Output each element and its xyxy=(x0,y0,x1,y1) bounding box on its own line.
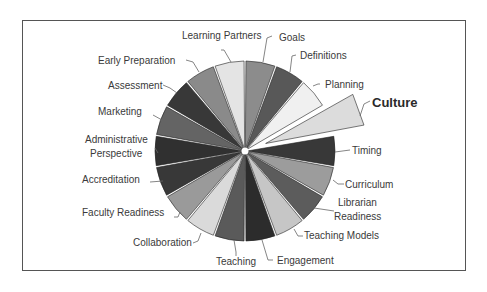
label-administrative-perspective-2: Perspective xyxy=(90,148,143,159)
label-definitions: Definitions xyxy=(300,50,347,61)
label-accreditation: Accreditation xyxy=(82,174,140,185)
label-culture: Culture xyxy=(372,95,418,110)
label-early-preparation: Early Preparation xyxy=(98,55,175,66)
label-teaching-models: Teaching Models xyxy=(304,230,379,241)
label-marketing: Marketing xyxy=(98,106,142,117)
label-assessment: Assessment xyxy=(108,80,163,91)
label-learning-partners: Learning Partners xyxy=(182,30,262,41)
label-collaboration: Collaboration xyxy=(133,237,192,248)
label-teaching: Teaching xyxy=(216,256,256,267)
label-faculty-readiness: Faculty Readiness xyxy=(82,207,164,218)
label-timing: Timing xyxy=(352,145,382,156)
label-librarian-readiness-1: Librarian xyxy=(338,197,377,208)
label-engagement: Engagement xyxy=(277,255,334,266)
label-planning: Planning xyxy=(325,79,364,90)
label-goals: Goals xyxy=(279,32,305,43)
label-librarian-readiness-2: Readiness xyxy=(334,211,381,222)
label-administrative-perspective-1: Administrative xyxy=(85,134,148,145)
label-curriculum: Curriculum xyxy=(345,179,393,190)
pie-center-hole xyxy=(242,148,249,155)
pie-chart: Goals Definitions Planning Culture Timin… xyxy=(0,0,487,292)
